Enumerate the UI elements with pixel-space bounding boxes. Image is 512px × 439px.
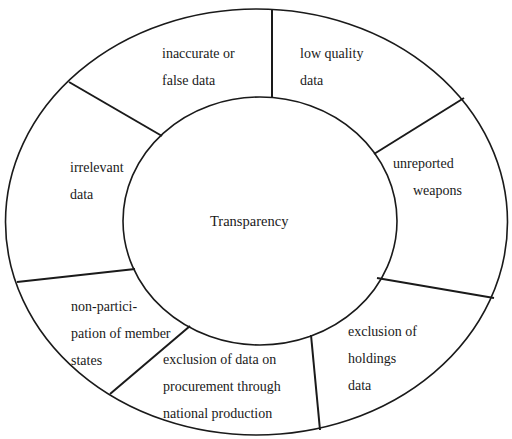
segment-line: states: [71, 347, 171, 374]
segment-line: pation of member: [71, 320, 171, 347]
segment-line: data: [348, 372, 417, 399]
segment-line: unreported: [393, 150, 462, 177]
segment-line: non-partici-: [71, 293, 171, 320]
segment-line: low quality: [300, 40, 363, 67]
segment-low-quality-data: low quality data: [300, 40, 363, 94]
segment-line: inaccurate or: [162, 40, 235, 67]
segment-line: weapons: [393, 177, 462, 204]
divider-unreported-holdings: [377, 278, 494, 298]
divider-lowquality-unreported: [374, 98, 464, 154]
segment-line: procurement through: [163, 373, 281, 400]
segment-line: irrelevant: [70, 154, 124, 181]
segment-non-participation-of-member-states: non-partici- pation of member states: [71, 293, 171, 374]
segment-line: data: [300, 67, 363, 94]
segment-line: exclusion of: [348, 318, 417, 345]
center-label-transparency: Transparency: [210, 208, 288, 235]
segment-inaccurate-or-false-data: inaccurate or false data: [162, 40, 235, 94]
center-label-text: Transparency: [210, 208, 288, 235]
segment-exclusion-of-procurement-data: exclusion of data on procurement through…: [163, 346, 281, 427]
segment-line: national production: [163, 400, 281, 427]
segment-unreported-weapons: unreported weapons: [393, 150, 462, 204]
segment-irrelevant-data: irrelevant data: [70, 154, 124, 208]
segment-line: false data: [162, 67, 235, 94]
divider-holdings-procurement: [311, 335, 320, 430]
divider-nonparticipation-irrelevant: [17, 269, 135, 282]
segment-exclusion-of-holdings-data: exclusion of holdings data: [348, 318, 417, 399]
segment-line: data: [70, 181, 124, 208]
divider-inaccurate-irrelevant: [69, 82, 162, 136]
segment-line: exclusion of data on: [163, 346, 281, 373]
segment-line: holdings: [348, 345, 417, 372]
